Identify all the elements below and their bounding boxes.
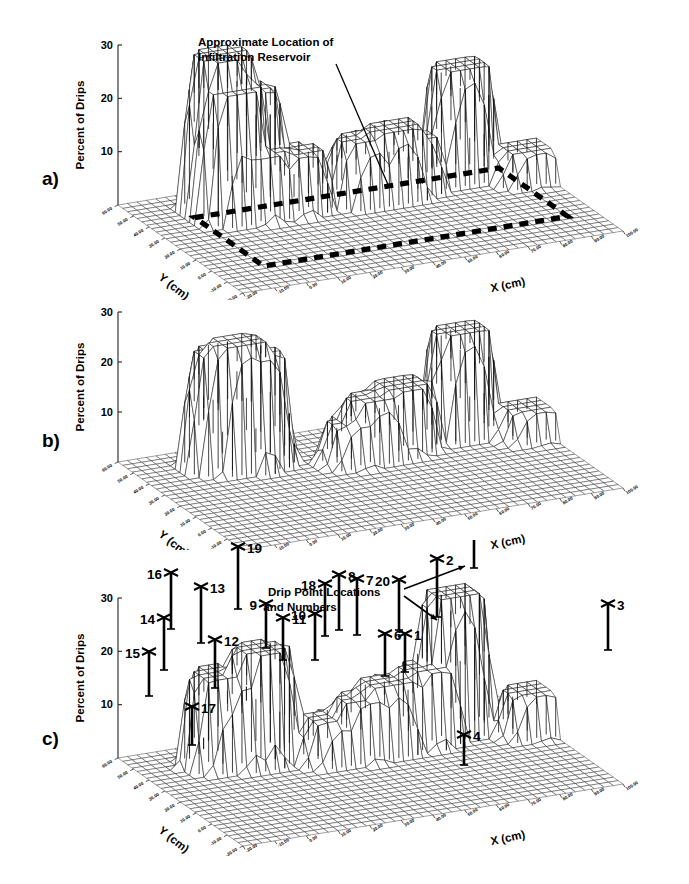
drip-point-number: 9 [249,598,257,613]
drip-point-number: 2 [446,553,454,568]
y-tick-label: 10.00 [179,261,191,271]
reservoir-annotation-line2: Infiltration Reservoir [198,51,311,63]
y-tick-label: -20.00 [225,847,239,858]
y-tick-label: 10.00 [179,814,191,824]
drip-point-number: 14 [140,612,156,627]
panel-c: 102030Percent of Drips-20.00-10.000.0010… [0,540,689,884]
reservoir-annotation-line1: Approximate Location of [198,36,334,48]
x-tick-label: 100.00 [625,227,640,239]
drip-point-number: 3 [617,598,625,613]
y-tick-label: 30.00 [148,496,160,506]
panel-a-plot: 102030Percent of Drips-20.00-10.000.0010… [0,0,689,300]
drip-annotation-arrowhead [458,566,465,571]
y-tick-label: -10.00 [209,836,223,847]
y-tick-label: 60.00 [101,463,113,473]
drip-point-number: 11 [292,612,307,627]
y-tick-label: 30.00 [148,239,160,249]
z-tick-label: 10 [101,145,113,157]
drip-point-number: 13 [210,581,226,596]
z-tick-label: 10 [101,406,113,418]
drip-point-number: 12 [224,634,239,649]
y-tick-label: 30.00 [148,792,160,802]
drip-point-number: 8 [348,569,356,584]
y-tick-label: 40.00 [132,485,144,495]
x-axis-title: X (cm) [489,828,526,847]
y-tick-label: 50.00 [117,217,129,227]
y-tick-label: 60.00 [101,759,113,769]
z-tick-label: 20 [101,356,113,368]
panel-c-plot: 102030Percent of Drips-20.00-10.000.0010… [0,540,689,884]
drip-point-number: 19 [247,541,262,556]
drip-point-number: 1 [414,628,422,643]
y-tick-label: 40.00 [132,228,144,238]
panel-a: 102030Percent of Drips-20.00-10.000.0010… [0,0,689,300]
panel-label: c) [42,728,59,749]
z-tick-label: 30 [101,592,113,604]
drip-point-number: 4 [473,729,481,744]
z-tick-label: 30 [101,39,113,51]
x-tick-label: 100.00 [625,484,640,496]
y-tick-label: 40.00 [132,781,144,791]
y-tick-label: 0.00 [197,825,207,834]
y-axis-title: Y (cm) [156,824,191,855]
y-tick-label: 20.00 [164,507,176,517]
z-tick-label: 20 [101,92,113,104]
drip-point-number: 15 [125,646,141,661]
z-axis-title: Percent of Drips [74,634,86,723]
y-tick-label: 10.00 [179,518,191,528]
panel-b: 102030Percent of Drips-20.00-10.000.0010… [0,292,689,550]
y-tick-label: 60.00 [101,206,113,216]
panel-b-plot: 102030Percent of Drips-20.00-10.000.0010… [0,292,689,550]
z-tick-label: 20 [101,645,113,657]
y-tick-label: 20.00 [164,803,176,813]
x-tick-label: 100.00 [625,780,640,792]
y-tick-label: 50.00 [117,770,129,780]
z-tick-label: 10 [101,698,113,710]
y-tick-label: 0.00 [197,272,207,281]
drip-annotation-line2: and Numbers [263,601,337,613]
z-tick-label: 30 [101,306,113,318]
panel-label: a) [42,168,59,189]
y-tick-label: 20.00 [164,250,176,260]
drip-annotation-line1: Drip Point Locations [268,586,380,598]
y-tick-label: 0.00 [197,529,207,538]
drip-point-number: 16 [147,567,163,582]
z-axis-title: Percent of Drips [74,81,86,170]
y-tick-label: 50.00 [117,474,129,484]
z-axis-title: Percent of Drips [74,343,86,432]
drip-point-number: 17 [201,701,216,716]
panel-label: b) [42,430,60,451]
